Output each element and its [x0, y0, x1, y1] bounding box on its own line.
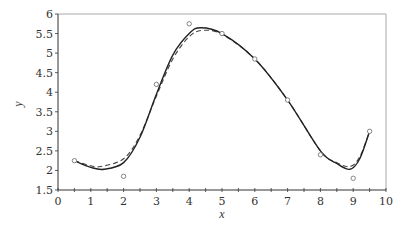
- x-tick-label: 1: [87, 195, 94, 208]
- x-axis-label: x: [218, 207, 225, 221]
- x-tick-label: 0: [55, 195, 62, 208]
- chart: 0123456789101.522.533.544.555.56 x y: [0, 0, 410, 230]
- y-tick-label: 5.5: [36, 28, 54, 41]
- x-tick-label: 2: [120, 195, 127, 208]
- y-tick-label: 4: [46, 86, 53, 99]
- tick-labels: 0123456789101.522.533.544.555.56: [36, 8, 394, 208]
- y-tick-label: 3: [46, 125, 53, 138]
- x-tick-label: 4: [186, 195, 193, 208]
- data-point-marker: [285, 98, 289, 102]
- dashed-fit-line: [74, 30, 369, 167]
- data-point-marker: [121, 174, 125, 178]
- y-tick-label: 3.5: [36, 106, 54, 119]
- x-tick-label: 10: [379, 195, 393, 208]
- x-tick-label: 3: [153, 195, 160, 208]
- data-point-marker: [318, 153, 322, 157]
- data-point-marker: [351, 176, 355, 180]
- x-tick-label: 6: [251, 195, 258, 208]
- x-tick-label: 8: [317, 195, 324, 208]
- y-tick-label: 5: [46, 47, 53, 60]
- y-tick-label: 4.5: [36, 67, 54, 80]
- x-tick-label: 9: [350, 195, 357, 208]
- plot-series: [72, 22, 372, 181]
- data-point-marker: [187, 22, 191, 26]
- x-tick-label: 7: [284, 195, 291, 208]
- y-tick-label: 2: [46, 164, 53, 177]
- solid-fit-line: [74, 28, 369, 170]
- y-tick-label: 2.5: [36, 145, 54, 158]
- y-axis-label: y: [11, 101, 25, 108]
- data-point-marker: [72, 158, 76, 162]
- axis-ticks: [55, 14, 386, 192]
- y-tick-label: 1.5: [36, 184, 54, 197]
- data-point-marker: [154, 82, 158, 86]
- data-point-marker: [367, 129, 371, 133]
- data-point-marker: [220, 31, 224, 35]
- y-tick-label: 6: [46, 8, 53, 21]
- data-point-marker: [253, 57, 257, 61]
